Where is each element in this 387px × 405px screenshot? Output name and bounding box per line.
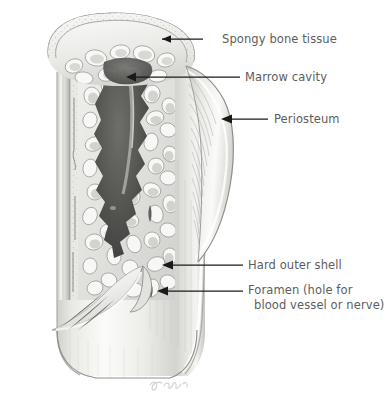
artist-signature xyxy=(150,382,187,390)
bone-illustration xyxy=(0,0,387,405)
label-hard-outer-shell-text: Hard outer shell xyxy=(248,258,342,272)
label-marrow-cavity-text: Marrow cavity xyxy=(245,70,327,84)
label-foramen: Foramen (hole for blood vessel or nerve) xyxy=(248,283,384,313)
cortical-cut-edge xyxy=(57,68,80,300)
label-foramen-line1: Foramen (hole for xyxy=(248,283,384,298)
label-hard-outer-shell: Hard outer shell xyxy=(248,258,342,273)
bone-head-cap xyxy=(47,12,195,86)
bone-anatomy-diagram: Spongy bone tissue Marrow cavity Periost… xyxy=(0,0,387,405)
label-spongy-bone-tissue: Spongy bone tissue xyxy=(222,32,337,47)
label-spongy-bone-tissue-text: Spongy bone tissue xyxy=(222,32,337,46)
label-periosteum: Periosteum xyxy=(274,112,340,127)
label-marrow-cavity: Marrow cavity xyxy=(245,70,327,85)
label-foramen-line2: blood vessel or nerve) xyxy=(248,298,384,313)
label-periosteum-text: Periosteum xyxy=(274,112,340,126)
